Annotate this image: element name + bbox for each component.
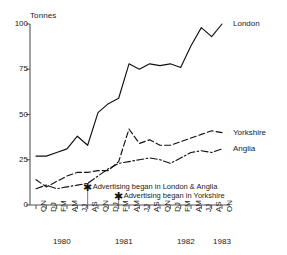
x-tick-label: DJ: [50, 202, 58, 212]
x-tick-label: JJ: [143, 204, 151, 212]
axis-lines: [30, 24, 230, 205]
x-axis-year-label: 1981: [108, 238, 140, 246]
x-tick-label: JJ: [205, 204, 213, 212]
y-tick-label: 100: [6, 20, 28, 28]
annotation-text-2: Advertising began in Yorkshire: [124, 192, 225, 200]
x-tick-label: ON: [102, 200, 110, 212]
x-tick-label: DJ: [174, 202, 182, 212]
x-tick-label: AS: [91, 201, 99, 212]
x-tick-label: AM: [133, 200, 141, 212]
x-tick-label: FM: [122, 200, 130, 212]
annotation-text-1: Advertising began in London & Anglia: [93, 183, 218, 191]
x-tick-label: AS: [215, 201, 223, 212]
series-label-yorkshire: Yorkshire: [233, 129, 266, 137]
x-tick-label: JJ: [81, 204, 89, 212]
x-tick-label: FM: [60, 200, 68, 212]
x-tick-label: ON: [40, 200, 48, 212]
x-tick-label: AM: [195, 200, 203, 212]
series-line-london: [36, 24, 222, 156]
series-label-london: London: [233, 20, 260, 28]
series-label-anglia: Anglia: [233, 145, 255, 153]
x-axis-year-label: 1980: [46, 238, 78, 246]
x-tick-label: AM: [71, 200, 79, 212]
x-tick-label: ON: [164, 200, 172, 212]
y-tick-label: 25: [6, 156, 28, 164]
annotation-asterisk-icon: ✱: [83, 181, 92, 193]
x-axis-year-label: 1983: [206, 238, 238, 246]
series-line-yorkshire: [36, 129, 222, 187]
y-tick-label: 50: [6, 111, 28, 119]
y-tick-label: 75: [6, 65, 28, 73]
y-tick-label: 0: [6, 201, 28, 209]
x-tick-label: DJ: [112, 202, 120, 212]
chart-container: Tonnes ✱✱ 0255075100 ONDJFMAMJJASONDJFMA…: [0, 0, 287, 255]
x-tick-label: ON: [226, 200, 234, 212]
x-axis-year-label: 1982: [170, 238, 202, 246]
x-tick-label: FM: [184, 200, 192, 212]
x-tick-label: AS: [153, 201, 161, 212]
